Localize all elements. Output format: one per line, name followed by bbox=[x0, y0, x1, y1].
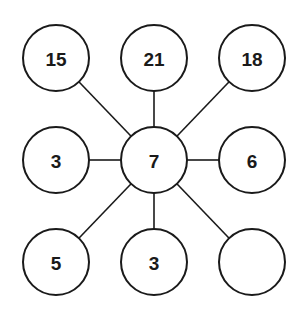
node-value: 3 bbox=[51, 151, 62, 172]
node-center: 7 bbox=[121, 127, 187, 193]
node-middle-right: 6 bbox=[219, 127, 285, 193]
node-value: 7 bbox=[149, 151, 160, 172]
edge-center-to-top-left bbox=[79, 82, 131, 136]
edge-center-to-top-right bbox=[177, 82, 229, 136]
node-value: 6 bbox=[247, 151, 258, 172]
node-value: 21 bbox=[143, 49, 165, 70]
node-value: 15 bbox=[45, 49, 67, 70]
node-middle-left: 3 bbox=[23, 127, 89, 193]
node-value: 3 bbox=[149, 253, 160, 274]
node-top-right: 18 bbox=[219, 25, 285, 91]
node-bottom-left: 5 bbox=[23, 229, 89, 295]
node-top-left: 15 bbox=[23, 25, 89, 91]
node-value: 18 bbox=[241, 49, 262, 70]
node-bottom-right bbox=[219, 229, 285, 295]
edge-center-to-bottom-left bbox=[79, 184, 131, 238]
nodes: 71521183653 bbox=[23, 25, 285, 295]
edge-center-to-bottom-right bbox=[177, 184, 229, 238]
node-value: 5 bbox=[51, 253, 62, 274]
node-top-middle: 21 bbox=[121, 25, 187, 91]
node-bottom-middle: 3 bbox=[121, 229, 187, 295]
node-circle bbox=[219, 229, 285, 295]
number-star-diagram: 71521183653 bbox=[0, 0, 300, 318]
